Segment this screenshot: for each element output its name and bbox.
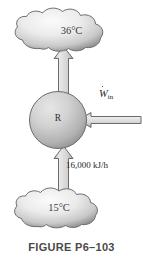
- thermodynamic-cycle-figure: 36°C R 15°C 16,000 kJ/h Win FIGURE P6–10…: [0, 0, 143, 268]
- cold-reservoir-temperature-label: 15°C: [0, 203, 118, 214]
- arrow-up-icon-heat-rejected: [54, 47, 73, 96]
- work-input-label: Win: [99, 89, 113, 101]
- work-symbol-letter: W: [99, 88, 108, 99]
- device-label: R: [0, 114, 116, 124]
- work-symbol: W: [99, 89, 108, 100]
- hot-reservoir-temperature-label: 36°C: [0, 26, 143, 37]
- heat-input-rate-label: 16,000 kJ/h: [66, 161, 108, 170]
- figure-caption: FIGURE P6–103: [0, 241, 143, 253]
- work-symbol-subscript: in: [108, 93, 114, 101]
- figure-graphics: [0, 0, 143, 268]
